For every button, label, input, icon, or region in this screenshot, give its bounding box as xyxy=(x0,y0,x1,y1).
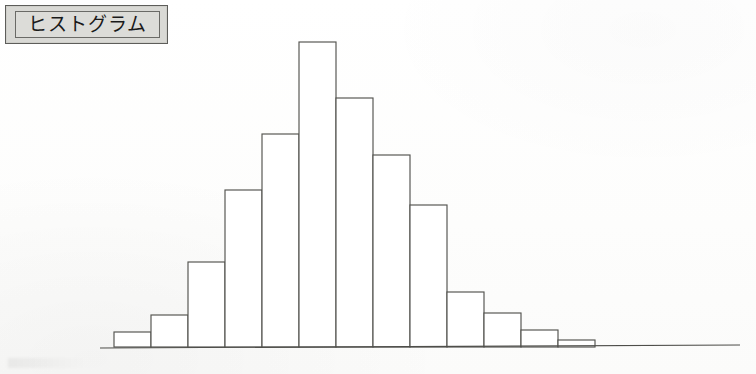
histogram-bar xyxy=(114,332,151,347)
histogram-bar xyxy=(410,205,447,347)
histogram-bar xyxy=(188,262,225,347)
histogram-bar xyxy=(299,42,336,347)
histogram-bar xyxy=(225,190,262,347)
histogram-page: ヒストグラム xyxy=(0,0,756,374)
histogram-svg xyxy=(0,0,756,374)
histogram-bar xyxy=(151,315,188,347)
histogram-bar xyxy=(484,313,521,347)
histogram-bar xyxy=(336,98,373,347)
histogram-bar xyxy=(447,292,484,347)
chart-title-box: ヒストグラム xyxy=(5,5,168,44)
histogram-bar xyxy=(373,155,410,347)
chart-title-inner-border: ヒストグラム xyxy=(15,11,160,38)
histogram-bars xyxy=(114,42,595,347)
page-title: ヒストグラム xyxy=(28,15,147,34)
histogram-bar xyxy=(521,330,558,347)
histogram-chart xyxy=(0,0,756,374)
histogram-bar xyxy=(262,134,299,347)
